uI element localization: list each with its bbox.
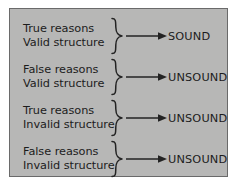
diagram-row: True reasons Valid structure SOUND xyxy=(10,15,227,57)
premise-reasons: True reasons xyxy=(23,104,118,118)
premise-reasons: False reasons xyxy=(23,63,118,77)
diagram-row: False reasons Invalid structure UNSOUND xyxy=(10,138,227,180)
premise-group: True reasons Invalid structure xyxy=(23,104,118,132)
premise-structure: Valid structure xyxy=(23,77,118,91)
argument-soundness-diagram: True reasons Valid structure SOUND False… xyxy=(9,8,228,177)
premise-structure: Valid structure xyxy=(23,36,118,50)
arrow-icon xyxy=(126,113,168,124)
curly-brace-icon xyxy=(110,99,124,137)
arrow-icon xyxy=(126,31,168,42)
arrow-icon xyxy=(126,72,168,83)
premise-reasons: False reasons xyxy=(23,145,118,159)
arrow-icon xyxy=(126,154,168,165)
curly-brace-icon xyxy=(110,58,124,96)
premise-group: True reasons Valid structure xyxy=(23,22,118,50)
diagram-row: True reasons Invalid structure UNSOUND xyxy=(10,97,227,139)
curly-brace-icon xyxy=(110,140,124,178)
verdict-label: SOUND xyxy=(168,30,210,43)
premise-structure: Invalid structure xyxy=(23,159,118,173)
premise-reasons: True reasons xyxy=(23,22,118,36)
verdict-label: UNSOUND xyxy=(168,71,227,84)
verdict-label: UNSOUND xyxy=(168,153,227,166)
premise-group: False reasons Valid structure xyxy=(23,63,118,91)
verdict-label: UNSOUND xyxy=(168,112,227,125)
premise-group: False reasons Invalid structure xyxy=(23,145,118,173)
diagram-row: False reasons Valid structure UNSOUND xyxy=(10,56,227,98)
curly-brace-icon xyxy=(110,17,124,55)
diagram-row-list: True reasons Valid structure SOUND False… xyxy=(10,9,227,176)
premise-structure: Invalid structure xyxy=(23,118,118,132)
